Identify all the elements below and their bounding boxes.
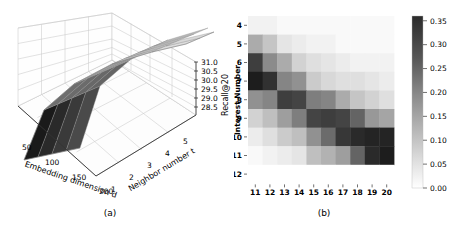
heatmap-cell bbox=[277, 16, 292, 35]
z-tick-2: 29.5 bbox=[201, 85, 218, 94]
heatmap-cell bbox=[277, 128, 292, 147]
heatmap-cell bbox=[248, 109, 263, 128]
heatmap-cell bbox=[277, 146, 292, 165]
heatmap-cell bbox=[365, 109, 380, 128]
heatmap-cell bbox=[350, 53, 365, 72]
z-axis: 28.5 29.0 29.5 30.0 30.5 31.0 Recall@20 bbox=[194, 58, 230, 116]
heatmap-cell bbox=[365, 16, 380, 35]
colorbar: 0.000.050.100.150.200.250.300.35 bbox=[412, 16, 447, 193]
heatmap-x-tick-label: 18 bbox=[352, 188, 362, 197]
heatmap-x-tick-label: 13 bbox=[279, 188, 289, 197]
heatmap-cell bbox=[365, 72, 380, 91]
heatmap-cell bbox=[263, 165, 278, 184]
heatmap-cell bbox=[321, 35, 336, 54]
heatmap-cell bbox=[321, 53, 336, 72]
heatmap-cell bbox=[292, 16, 307, 35]
heatmap-x-tick-label: 19 bbox=[367, 188, 377, 197]
heatmap-cell bbox=[321, 90, 336, 109]
heatmap-cell bbox=[365, 90, 380, 109]
panel-b-caption: (b) bbox=[318, 208, 331, 218]
heatmap-cell bbox=[277, 53, 292, 72]
heatmap-cell bbox=[336, 53, 351, 72]
heatmap-cell bbox=[379, 90, 394, 109]
heatmap-cell bbox=[306, 109, 321, 128]
heatmap-cell bbox=[365, 35, 380, 54]
z-tick-5: 31.0 bbox=[201, 58, 218, 67]
heatmap-cell bbox=[321, 72, 336, 91]
heatmap-cell bbox=[321, 146, 336, 165]
z-tick-1: 29.0 bbox=[201, 94, 218, 103]
heatmap-cell bbox=[277, 90, 292, 109]
heatmap-cell bbox=[248, 165, 263, 184]
heatmap-cell bbox=[292, 53, 307, 72]
heatmap-svg: 11121314151617181920 456789101112 Intere… bbox=[234, 0, 467, 238]
heatmap-cell bbox=[277, 109, 292, 128]
heatmap-cell bbox=[350, 165, 365, 184]
heatmap-cell bbox=[306, 146, 321, 165]
heatmap-cell bbox=[350, 128, 365, 147]
panel-a-surface-plot: 28.5 29.0 29.5 30.0 30.5 31.0 Recall@20 … bbox=[0, 0, 234, 238]
heatmap-cell bbox=[306, 128, 321, 147]
y-tick-3: 4 bbox=[165, 149, 170, 158]
heatmap-cell bbox=[350, 146, 365, 165]
heatmap-cell bbox=[365, 146, 380, 165]
heatmap-cell bbox=[292, 109, 307, 128]
heatmap-cell bbox=[336, 16, 351, 35]
heatmap-cell bbox=[292, 165, 307, 184]
colorbar-tick-label: 0.05 bbox=[430, 160, 447, 169]
heatmap-cell bbox=[379, 53, 394, 72]
heatmap-x-tick-label: 15 bbox=[308, 188, 318, 197]
heatmap-cell bbox=[336, 128, 351, 147]
heatmap-cell bbox=[350, 90, 365, 109]
heatmap-cell bbox=[306, 16, 321, 35]
heatmap-cell bbox=[292, 90, 307, 109]
heatmap-cell bbox=[248, 35, 263, 54]
heatmap-x-tick-label: 16 bbox=[323, 188, 333, 197]
heatmap-cell bbox=[336, 165, 351, 184]
heatmap-cell bbox=[321, 165, 336, 184]
heatmap-cell bbox=[350, 109, 365, 128]
heatmap-y-tick-label: 5 bbox=[237, 40, 242, 49]
colorbar-gradient bbox=[412, 16, 423, 188]
heatmap-cell bbox=[321, 109, 336, 128]
colorbar-tick-label: 0.10 bbox=[430, 136, 447, 145]
heatmap-cell bbox=[248, 128, 263, 147]
y-axis-label: Neighbor number t bbox=[127, 146, 197, 193]
heatmap-cell bbox=[306, 90, 321, 109]
heatmap-cell bbox=[379, 16, 394, 35]
heatmap-x-tick-label: 11 bbox=[250, 188, 260, 197]
heatmap-cell bbox=[292, 35, 307, 54]
heatmap-cell bbox=[263, 109, 278, 128]
heatmap-cells bbox=[248, 16, 394, 184]
colorbar-tick-label: 0.15 bbox=[430, 112, 447, 121]
heatmap-cell bbox=[263, 90, 278, 109]
colorbar-tick-label: 0.20 bbox=[430, 88, 447, 97]
heatmap-y-axis-label: Interest Number bbox=[234, 65, 242, 135]
heatmap-cell bbox=[263, 16, 278, 35]
heatmap-cell bbox=[379, 109, 394, 128]
z-tick-4: 30.5 bbox=[201, 67, 218, 76]
panel-b-heatmap: 11121314151617181920 456789101112 Intere… bbox=[234, 0, 467, 238]
heatmap-cell bbox=[248, 16, 263, 35]
heatmap-cell bbox=[263, 53, 278, 72]
heatmap-cell bbox=[321, 128, 336, 147]
heatmap-cell bbox=[336, 72, 351, 91]
heatmap-cell bbox=[306, 72, 321, 91]
x-tick-0: 50 bbox=[22, 143, 32, 152]
heatmap-cell bbox=[292, 128, 307, 147]
heatmap-cell bbox=[248, 90, 263, 109]
y-tick-2: 3 bbox=[147, 161, 152, 170]
heatmap-cell bbox=[350, 72, 365, 91]
heatmap-cell bbox=[379, 72, 394, 91]
heatmap-cell bbox=[336, 146, 351, 165]
heatmap-cell bbox=[277, 35, 292, 54]
z-tick-0: 28.5 bbox=[201, 103, 218, 112]
panel-a-caption: (a) bbox=[104, 208, 117, 218]
heatmap-cell bbox=[365, 128, 380, 147]
heatmap-cell bbox=[336, 35, 351, 54]
heatmap-cell bbox=[306, 35, 321, 54]
y-tick-4: 5 bbox=[183, 137, 188, 146]
colorbar-tick-label: 0.30 bbox=[430, 40, 447, 49]
heatmap-x-tick-label: 20 bbox=[381, 188, 391, 197]
heatmap-cell bbox=[263, 128, 278, 147]
